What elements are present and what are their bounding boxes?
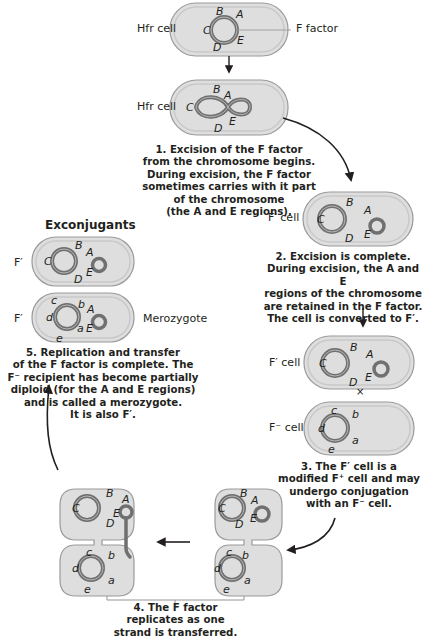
svg-text:E: E [86,322,93,335]
svg-text:B: B [216,5,224,18]
step-1-line: 1. Excision of the F factor [134,144,324,156]
svg-text:C: C [203,24,211,37]
step-2-caption: 2. Excision is complete. During excision… [263,251,423,325]
hfr-cell-2: B A C E D [170,80,288,135]
exconjugant-f-prime: B A C E D [32,237,134,286]
svg-text:A: A [223,89,232,102]
step-3-line: undergo conjugation [274,486,424,498]
step-2-line: are retained in the F factor. [263,301,423,313]
f-minus-cell-label: F⁻ cell [269,421,304,434]
svg-text:E: E [237,34,244,47]
merozygote-label: Merozygote [143,312,207,325]
svg-text:E: E [250,512,257,525]
step-4-line: 4. The F factor [108,602,243,614]
svg-text:E: E [364,228,371,241]
step-1-caption: 1. Excision of the F factor from the chr… [134,144,324,218]
svg-text:B: B [240,487,248,500]
svg-text:D: D [213,41,221,54]
svg-text:c: c [51,294,57,307]
svg-text:d: d [214,562,222,575]
svg-text:d: d [46,311,54,324]
step-4-caption: 4. The F factor replicates as one strand… [108,602,243,638]
svg-text:a: a [108,574,115,587]
svg-text:D: D [106,517,114,530]
step-5-line: and is called a merozygote. [0,397,206,409]
step-3-line: 3. The F′ cell is a [274,461,424,473]
svg-text:B: B [350,341,358,354]
svg-text:D: D [214,122,222,135]
svg-text:e: e [223,583,230,596]
svg-text:B: B [75,239,83,252]
svg-text:a: a [77,322,84,335]
exconjugant-2-label: F′ [14,312,23,325]
svg-text:A: A [365,348,374,361]
svg-text:b: b [352,408,359,421]
f-factor-label: F factor [296,22,338,35]
f-minus-cell: c b d a e [304,402,414,456]
step-5-line: of the F factor is complete. The [0,359,206,371]
svg-text:c: c [331,404,337,417]
step-5-caption: 5. Replication and transfer of the F fac… [0,347,206,421]
svg-text:c: c [226,546,232,559]
step-2-line: During excision, the A and E [263,263,423,288]
svg-text:e: e [328,443,335,456]
svg-text:E: E [365,371,372,384]
exconjugant-1-label: F′ [14,256,23,269]
svg-text:C: C [72,502,80,515]
svg-text:C: C [319,357,327,370]
svg-text:D: D [235,518,243,531]
step4-bracket [107,596,244,600]
svg-text:d: d [318,422,326,435]
svg-text:a: a [244,574,251,587]
step-5-line: 5. Replication and transfer [0,347,206,359]
step-5-line: It is also F′. [0,409,206,421]
cross-symbol: × [356,386,364,397]
svg-text:B: B [213,83,221,96]
f-prime-cell-step3: B A C E D [304,336,414,389]
hfr-cell-label-2: Hfr cell [137,100,176,113]
exconjugant-merozygote: c b A d a E e [32,293,134,345]
step-3-line: with an F⁻ cell. [274,498,424,510]
hfr-cell-label-1: Hfr cell [137,22,176,35]
svg-text:e: e [84,583,91,596]
svg-text:A: A [85,246,94,259]
step-2-line: The cell is converted to F′. [263,313,423,325]
step-2-line: 2. Excision is complete. [263,251,423,263]
step-3-line: modified F⁺ cell and may [274,473,424,485]
step-1-line: During excision, the F factor [134,169,324,181]
step-3-caption: 3. The F′ cell is a modified F⁺ cell and… [274,461,424,511]
svg-text:d: d [72,562,80,575]
svg-text:B: B [346,196,354,209]
svg-text:B: B [106,487,114,500]
svg-text:D: D [345,232,353,245]
step-2-line: regions of the chromosome [263,288,423,300]
svg-text:e: e [56,332,63,345]
svg-text:b: b [108,549,115,562]
exconjugants-title: Exconjugants [45,218,136,232]
conjugating-pair-left: B A C E D c b d a e [60,487,134,596]
svg-text:C: C [44,255,52,268]
svg-text:A: A [363,204,372,217]
step-5-line: diploid (for the A and E regions) [0,384,206,396]
step-1-line: of the chromosome [134,194,324,206]
step-1-line: from the chromosome begins. [134,156,324,168]
svg-text:C: C [186,101,194,114]
svg-text:a: a [352,434,359,447]
svg-text:A: A [250,494,259,507]
svg-text:c: c [86,546,92,559]
step-4-line: strand is transferred. [108,627,243,638]
hfr-cell-1: B A C E D [170,3,291,56]
svg-text:E: E [229,115,236,128]
f-prime-cell-label-3: F′ cell [269,356,300,369]
step-1-line: sometimes carries with it part [134,181,324,193]
svg-text:C: C [218,502,226,515]
svg-text:b: b [242,549,249,562]
svg-text:A: A [121,493,130,506]
conjugating-pair-right: B A C E D c b d a e [214,487,282,596]
svg-text:D: D [74,273,82,286]
step-1-line: (the A and E regions). [134,206,324,218]
arrow-4 [288,518,335,550]
step-4-line: replicates as one [108,614,243,626]
svg-text:E: E [86,266,93,279]
svg-text:b: b [78,298,85,311]
